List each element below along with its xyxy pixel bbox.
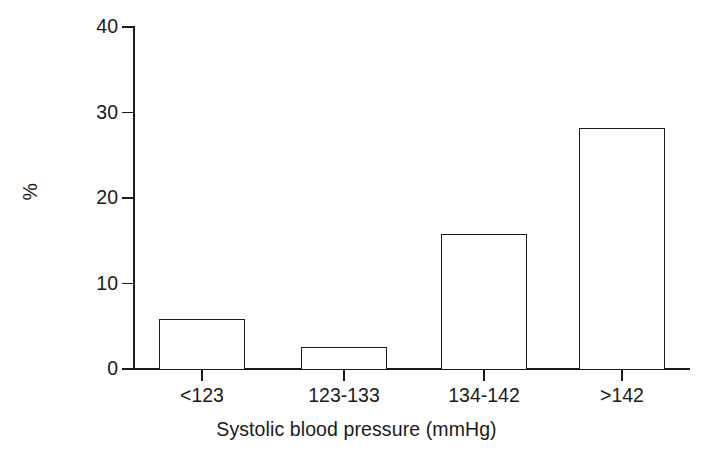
- bar-chart-figure: 0 10 20 30 40 <123 123-133 134-142 >142 …: [0, 0, 713, 466]
- bar-2: [441, 234, 527, 369]
- bar-1: [301, 347, 387, 369]
- bar-0: [159, 319, 245, 369]
- x-tick-label-0: <123: [180, 386, 224, 406]
- bar-3: [579, 128, 665, 370]
- x-tick-label-1: 123-133: [308, 386, 380, 406]
- y-tick-mark-10: [122, 283, 134, 285]
- x-axis-title: Systolic blood pressure (mmHg): [0, 420, 713, 440]
- y-axis-title: %: [21, 183, 41, 200]
- x-tick-mark-3: [621, 369, 623, 381]
- y-tick-mark-0: [122, 368, 134, 370]
- y-tick-mark-40: [122, 26, 134, 28]
- y-tick-mark-30: [122, 112, 134, 114]
- x-tick-mark-1: [343, 369, 345, 381]
- x-tick-label-3: >142: [600, 386, 644, 406]
- y-tick-label-0: 0: [74, 359, 118, 379]
- x-tick-label-2: 134-142: [448, 386, 520, 406]
- y-tick-mark-20: [122, 197, 134, 199]
- x-tick-mark-2: [483, 369, 485, 381]
- x-tick-mark-0: [201, 369, 203, 381]
- y-tick-label-10: 10: [74, 274, 118, 294]
- y-tick-label-30: 30: [74, 103, 118, 123]
- y-tick-label-40: 40: [74, 17, 118, 37]
- y-tick-label-20: 20: [74, 188, 118, 208]
